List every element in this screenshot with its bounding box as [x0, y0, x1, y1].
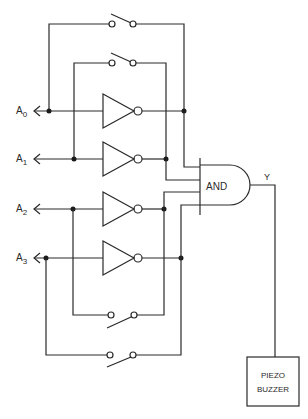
inverter-a3 [34, 241, 184, 275]
label-a3: A3 [16, 252, 28, 266]
buzzer-label-line2: BUZZER [257, 385, 289, 394]
label-a0: A0 [16, 105, 28, 119]
buzzer-label-line1: PIEZO [261, 371, 285, 380]
label-a2: A2 [16, 203, 28, 217]
label-a1: A1 [16, 153, 28, 167]
output-label: Y [264, 172, 270, 182]
piezo-buzzer: PIEZO BUZZER [247, 357, 299, 406]
inverter-a2 [34, 192, 167, 226]
output-y: Y [250, 172, 275, 357]
inverter-a1 [34, 142, 169, 176]
and-gate: AND [200, 158, 250, 215]
and-gate-label: AND [206, 181, 227, 192]
address-labels: A0 A1 A2 A3 [16, 105, 28, 266]
inverter-a0 [34, 94, 187, 128]
switch-a1-loop [74, 53, 166, 159]
circuit-diagram: AND Y PIEZO BUZZER A0 A1 A2 A3 [0, 0, 308, 419]
and-gate-inputs [164, 111, 200, 258]
switch-a2-loop [73, 209, 164, 328]
